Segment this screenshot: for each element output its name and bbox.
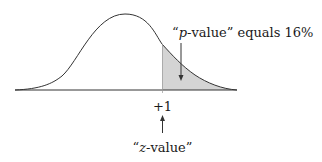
- z-value-arrow-head: [160, 115, 165, 121]
- normal-curve-diagram: “p-value” equals 16% +1 “z-value”: [0, 0, 322, 162]
- p-value-label: “p-value” equals 16%: [172, 25, 313, 40]
- z-tick-label: +1: [153, 99, 172, 114]
- shaded-tail-area: [162, 44, 237, 90]
- z-value-label: “z-value”: [133, 140, 193, 155]
